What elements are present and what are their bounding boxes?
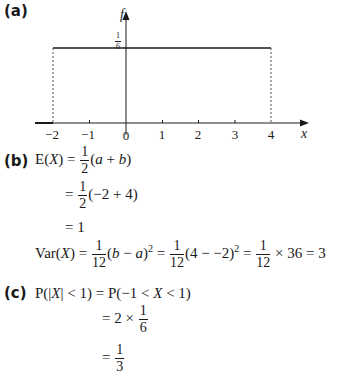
tick-label: 2 [195, 127, 202, 143]
expectation-line-3: = 1 [65, 219, 85, 236]
tick-label: −1 [81, 127, 95, 143]
expectation-line-2: = 12(−2 + 4) [65, 180, 138, 211]
part-b-label: (b) [4, 152, 28, 170]
variance-line: Var(X) = 112(b − a)2 = 112(4 − −2)2 = 11… [35, 239, 326, 270]
tick-label: 3 [232, 127, 239, 143]
tick-label: 0 [123, 128, 130, 144]
tick-label: −2 [45, 127, 59, 143]
part-c-label: (c) [4, 284, 27, 302]
y-level-den: 6 [115, 42, 121, 51]
tick-label: 1 [159, 127, 166, 143]
y-level-num: 1 [115, 32, 121, 42]
probability-line-1: P(|X| < 1) = P(−1 < X < 1) [35, 285, 191, 302]
x-axis-label: x [301, 126, 307, 142]
y-axis-label: f [120, 7, 124, 23]
expectation-line-1: E(X) = 12(a + b) [35, 145, 131, 176]
probability-line-3: = 13 [102, 343, 125, 374]
probability-line-2: = 2 × 16 [102, 304, 149, 335]
tick-label: 4 [268, 127, 275, 143]
y-level-label: 1 6 [114, 31, 122, 51]
uniform-pdf-graph [0, 0, 341, 145]
